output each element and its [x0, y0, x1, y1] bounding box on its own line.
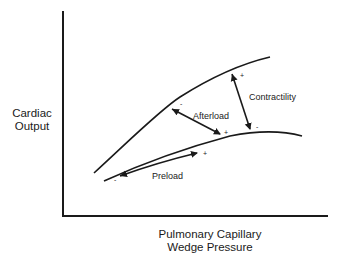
contractility-plus-sign: +	[240, 72, 244, 79]
x-axis-label-line2: Wedge Pressure	[150, 241, 270, 254]
preload-plus-sign: +	[203, 150, 207, 157]
y-axis-label-line1: Cardiac	[6, 107, 58, 120]
x-axis-label: Pulmonary Capillary Wedge Pressure	[150, 228, 270, 254]
contractility-arrow	[232, 74, 250, 129]
afterload-plus-sign: +	[224, 129, 228, 136]
afterload-minus-sign: -	[180, 100, 183, 107]
x-axis-label-line1: Pulmonary Capillary	[150, 228, 270, 241]
contractility-label: Contractility	[249, 92, 297, 102]
preload-label: Preload	[152, 171, 183, 181]
contractility-minus-sign: -	[256, 123, 259, 130]
y-axis-label: Cardiac Output	[6, 107, 58, 133]
afterload-label: Afterload	[193, 111, 229, 121]
y-axis-label-line2: Output	[6, 120, 58, 133]
preload-minus-sign: -	[114, 176, 117, 183]
